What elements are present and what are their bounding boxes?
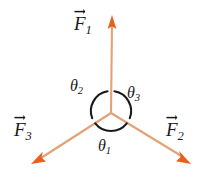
arc-theta1 [95,123,127,131]
arc-theta2 [91,91,108,118]
vector-label-f1: F 1 [74,14,92,36]
angle-label-theta1: θ1 [98,138,111,157]
angle-label-theta3: θ3 [127,85,140,104]
force-vector-diagram: F 1 F 2 F 3 θ1 θ2 θ3 [0,0,209,192]
vector-arrow-overline-f2 [166,113,178,120]
vector-label-f1-subscript: 1 [86,23,92,37]
vector-label-f1-letter: F [74,13,86,34]
vector-label-f3-letter: F [14,119,26,140]
angle-label-theta1-subscript: 1 [106,145,111,156]
vector-shaft-f1 [111,24,112,113]
angle-label-theta2: θ2 [70,78,83,97]
angle-label-theta1-letter: θ [98,137,106,154]
vector-label-f3-subscript: 3 [26,129,32,143]
angle-label-theta2-letter: θ [70,77,78,94]
vector-label-f3: F 3 [14,120,32,142]
vector-label-f2-letter: F [166,119,178,140]
arrowhead-f3 [31,151,46,164]
vector-arrow-overline-f3 [14,113,26,120]
angle-label-theta3-subscript: 3 [135,92,140,103]
angle-label-theta3-letter: θ [127,84,135,101]
vector-shafts [41,24,183,158]
angle-label-theta2-subscript: 2 [78,85,83,96]
diagram-canvas [0,0,209,192]
vector-label-f2: F 2 [166,120,184,142]
vector-arrow-overline-f1 [74,7,86,14]
vector-label-f2-subscript: 2 [178,129,184,143]
